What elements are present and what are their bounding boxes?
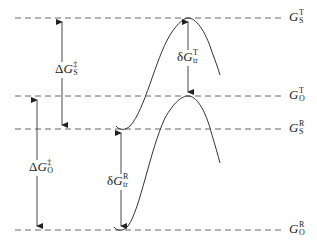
label-g-s-t: GTS [288, 10, 305, 26]
label-delta-g-s-activation: ΔG‡S [54, 62, 79, 78]
energy-diagram: ΔG‡S ΔG‡O δGTtr δGRtr GTS GTO GRS GRO [0, 0, 317, 249]
label-g-o-r: GRO [288, 222, 306, 238]
diagram-graphics [0, 0, 317, 249]
label-delta-g-tr-r: δGRtr [106, 174, 129, 190]
label-g-o-t: GTO [288, 88, 306, 104]
label-g-s-r: GRS [288, 121, 305, 137]
label-delta-g-o-activation: ΔG‡O [28, 160, 54, 176]
lower-energy-curve [114, 96, 220, 230]
label-delta-g-tr-t: δGTtr [176, 50, 199, 66]
